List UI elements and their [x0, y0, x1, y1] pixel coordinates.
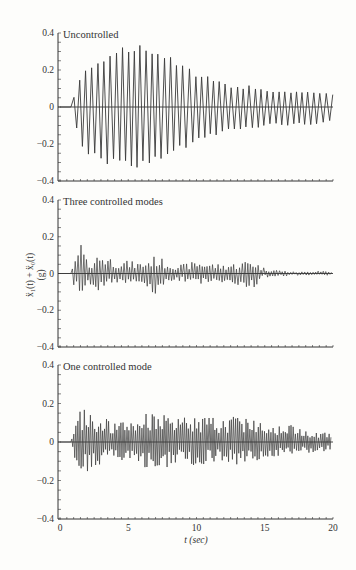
figure: 0.40.20−0.2−0.4Uncontrolled 0.40.20−0.2−… [0, 0, 356, 570]
y-tick-label: 0.4 [42, 360, 54, 370]
y-tick-label: 0.2 [42, 65, 54, 75]
y-tick-label: −0.2 [37, 476, 54, 486]
y-tick-label: 0.4 [42, 195, 54, 205]
y-tick-label: −0.4 [37, 514, 54, 524]
x-axis-title: t (sec) [184, 535, 207, 546]
y-tick-label: 0.2 [42, 399, 54, 409]
x-tick-label: 0 [58, 523, 63, 533]
y-tick-label: 0 [49, 437, 54, 447]
y-tick-label: −0.2 [37, 139, 54, 149]
x-tick-labels: 0 5 10 15 20 [58, 523, 338, 533]
x-tick-label: 20 [328, 523, 338, 533]
y-tick-label: 0 [49, 102, 54, 112]
y-tick-label: 0.4 [42, 28, 54, 38]
panel-title: One controlled mode [63, 361, 152, 372]
y-axis-title: ẍ₁(t) + ẍ₀(t) (g) [25, 253, 47, 297]
stacked-acceleration-plots: 0.40.20−0.2−0.4Uncontrolled 0.40.20−0.2−… [0, 0, 356, 570]
y-axis-title-line1: ẍ₁(t) + ẍ₀(t) [25, 253, 36, 297]
panel-title: Three controlled modes [63, 196, 163, 207]
y-tick-label: −0.2 [37, 305, 54, 315]
x-tick-label: 15 [260, 523, 270, 533]
acceleration-trace [60, 410, 331, 471]
panel-uncontrolled: 0.40.20−0.2−0.4Uncontrolled [37, 28, 333, 186]
panel-three-controlled-modes: 0.40.20−0.2−0.4Three controlled modes [37, 195, 333, 352]
y-tick-label: −0.4 [37, 342, 54, 352]
x-tick-label: 10 [192, 523, 202, 533]
y-tick-label: −0.4 [37, 176, 54, 186]
panel-one-controlled-mode: 0.40.20−0.2−0.4One controlled mode [37, 360, 333, 524]
panel-title: Uncontrolled [63, 29, 119, 40]
x-tick-label: 5 [126, 523, 131, 533]
acceleration-trace [60, 245, 332, 293]
acceleration-trace [60, 45, 333, 167]
y-tick-label: 0 [49, 269, 54, 279]
y-tick-label: 0.2 [42, 232, 54, 242]
y-axis-title-line2: (g) [36, 269, 47, 280]
